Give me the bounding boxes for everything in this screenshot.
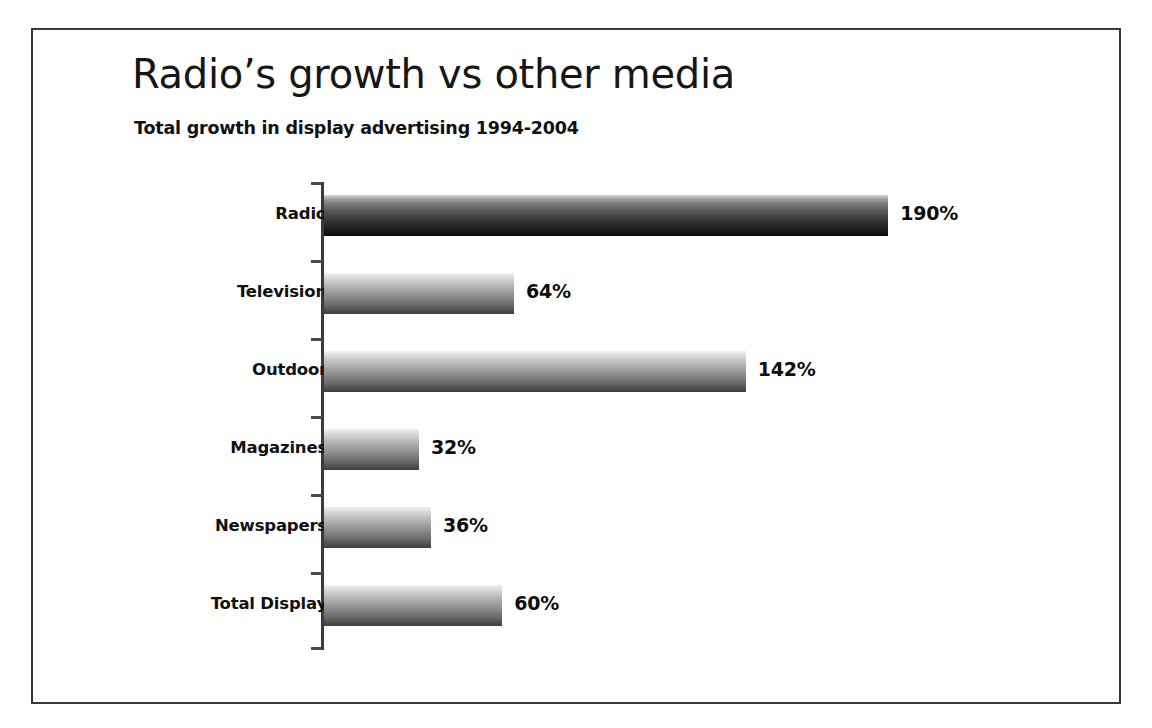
bar-value-magazines: 32%: [431, 436, 476, 458]
category-label-newspapers: Newspapers: [215, 516, 327, 535]
category-label-radio: Radio: [275, 204, 327, 223]
page-title: Radio’s growth vs other media: [132, 52, 735, 96]
bar-row: Total Display 60%: [33, 572, 1119, 650]
slide-page: Radio’s growth vs other media Total grow…: [0, 0, 1152, 728]
bar-row: Radio 190%: [33, 182, 1119, 260]
bar-total-display[interactable]: [324, 585, 502, 626]
bar-chart-plot-area: Radio 190% Television 64% Outdoor: [33, 176, 1119, 686]
bar-television[interactable]: [324, 273, 514, 314]
bar-wrap-newspapers[interactable]: [324, 507, 431, 548]
category-label-outdoor: Outdoor: [252, 360, 327, 379]
bar-wrap-outdoor[interactable]: [324, 351, 746, 392]
category-label-television: Television: [237, 282, 327, 301]
chart-subtitle: Total growth in display advertising 1994…: [134, 118, 579, 138]
bar-radio[interactable]: [324, 195, 888, 236]
bar-value-newspapers: 36%: [443, 514, 488, 536]
category-label-total-display: Total Display: [211, 594, 327, 613]
bar-magazines[interactable]: [324, 429, 419, 470]
bar-row: Television 64%: [33, 260, 1119, 338]
bar-row: Newspapers 36%: [33, 494, 1119, 572]
bar-row: Magazines 32%: [33, 416, 1119, 494]
bar-wrap-magazines[interactable]: [324, 429, 419, 470]
slide-frame: Radio’s growth vs other media Total grow…: [31, 28, 1121, 704]
bar-outdoor[interactable]: [324, 351, 746, 392]
category-label-magazines: Magazines: [230, 438, 327, 457]
bar-newspapers[interactable]: [324, 507, 431, 548]
bar-value-radio: 190%: [900, 202, 958, 224]
bar-value-total-display: 60%: [514, 592, 559, 614]
bar-wrap-total-display[interactable]: [324, 585, 502, 626]
bar-row: Outdoor 142%: [33, 338, 1119, 416]
bar-value-outdoor: 142%: [758, 358, 816, 380]
bar-wrap-television[interactable]: [324, 273, 514, 314]
bar-wrap-radio[interactable]: [324, 195, 888, 236]
bar-value-television: 64%: [526, 280, 571, 302]
